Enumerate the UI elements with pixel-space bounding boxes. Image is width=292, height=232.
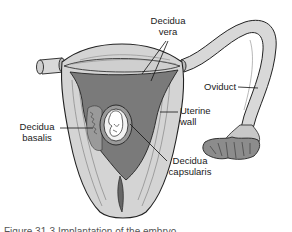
- figure-caption: Figure 31-3 Implantation of the embryo: [0, 226, 292, 232]
- label-uterine-wall: Uterine wall: [180, 106, 211, 127]
- label-decidua-capsularis: Decidua capsularis: [166, 156, 214, 177]
- figure-caption-text: Figure 31-3 Implantation of the embryo: [4, 226, 292, 232]
- label-decidua-vera-line2: vera: [148, 27, 188, 38]
- uterus-illustration: [0, 0, 292, 232]
- label-decidua-basalis-line1: Decidua: [14, 122, 60, 133]
- label-uterine-wall-line1: Uterine: [180, 106, 211, 117]
- label-decidua-basalis-line2: basalis: [14, 133, 60, 144]
- label-decidua-capsularis-line1: Decidua: [166, 156, 214, 167]
- label-decidua-basalis: Decidua basalis: [14, 122, 60, 143]
- uterus-diagram: Decidua vera Oviduct Uterine wall Decidu…: [0, 0, 292, 232]
- label-oviduct: Oviduct: [204, 82, 236, 93]
- label-uterine-wall-line2: wall: [180, 117, 211, 128]
- left-tube-stump: [37, 58, 66, 74]
- label-decidua-vera-line1: Decidua: [148, 16, 188, 27]
- embryo-sac: [100, 105, 132, 145]
- label-decidua-vera: Decidua vera: [148, 16, 188, 37]
- label-decidua-capsularis-line2: capsularis: [166, 167, 214, 178]
